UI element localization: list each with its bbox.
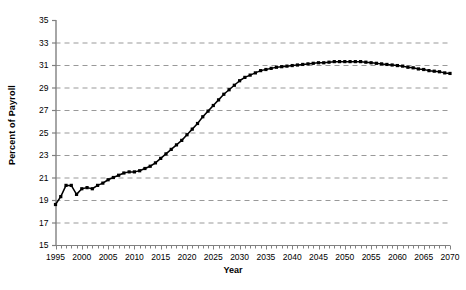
data-point-2058: [385, 63, 388, 66]
data-point-2064: [417, 67, 420, 70]
data-point-2046: [322, 61, 325, 64]
data-point-2055: [370, 61, 373, 64]
data-point-2024: [206, 110, 209, 113]
data-point-2034: [259, 69, 262, 72]
data-point-2066: [427, 69, 430, 72]
data-point-2031: [243, 76, 246, 79]
data-point-2013: [149, 165, 152, 168]
x-tick-label-2070: 2070: [441, 252, 460, 262]
data-point-2009: [128, 170, 131, 173]
data-point-2006: [112, 176, 115, 179]
x-tick-label-2000: 2000: [72, 252, 91, 262]
x-tick-label-2020: 2020: [178, 252, 197, 262]
data-point-2007: [117, 174, 120, 177]
data-point-2015: [159, 157, 162, 160]
x-tick-labels: 1995200020052010201520202025203020352040…: [46, 252, 460, 262]
data-point-2040: [291, 64, 294, 67]
data-point-2028: [227, 88, 230, 91]
y-tick-label-25: 25: [39, 128, 49, 138]
data-point-2035: [264, 68, 267, 71]
data-point-2047: [327, 61, 330, 64]
y-tick-label-31: 31: [39, 60, 49, 70]
data-point-2032: [249, 74, 252, 77]
data-point-2070: [448, 72, 451, 75]
line-chart: 1517192123252729313335 19952000200520102…: [0, 0, 466, 290]
x-tick-label-2015: 2015: [151, 252, 170, 262]
data-point-2016: [164, 152, 167, 155]
x-tick-label-2065: 2065: [414, 252, 433, 262]
data-point-2039: [285, 65, 288, 68]
x-tick-label-2060: 2060: [388, 252, 407, 262]
chart-container: 1517192123252729313335 19952000200520102…: [0, 0, 466, 290]
data-point-2029: [233, 84, 236, 87]
data-point-2067: [433, 70, 436, 73]
data-point-2036: [270, 67, 273, 70]
x-tick-label-2040: 2040: [283, 252, 302, 262]
data-point-2014: [154, 161, 157, 164]
data-point-2000: [80, 187, 83, 190]
data-point-2060: [396, 64, 399, 67]
data-point-2065: [422, 68, 425, 71]
data-point-2037: [275, 66, 278, 69]
data-point-2001: [85, 186, 88, 189]
data-point-2050: [343, 60, 346, 63]
data-point-2027: [222, 93, 225, 96]
x-tick-label-2005: 2005: [99, 252, 118, 262]
data-point-2025: [212, 104, 215, 107]
y-tick-label-29: 29: [39, 83, 49, 93]
data-point-2010: [133, 170, 136, 173]
data-point-1999: [75, 193, 78, 196]
x-tick-label-2050: 2050: [335, 252, 354, 262]
data-point-2018: [175, 143, 178, 146]
y-tick-label-33: 33: [39, 38, 49, 48]
data-point-1998: [70, 184, 73, 187]
data-point-2045: [317, 61, 320, 64]
data-point-2054: [364, 61, 367, 64]
data-point-2053: [359, 60, 362, 63]
x-axis-title: Year: [0, 265, 466, 275]
data-point-2043: [306, 62, 309, 65]
x-tick-label-2035: 2035: [256, 252, 275, 262]
data-point-2052: [354, 60, 357, 63]
data-point-2068: [438, 70, 441, 73]
data-point-2061: [401, 65, 404, 68]
data-point-2003: [96, 184, 99, 187]
data-point-2030: [238, 79, 241, 82]
y-tick-label-23: 23: [39, 150, 49, 160]
x-axis: [56, 246, 451, 250]
y-tick-label-19: 19: [39, 195, 49, 205]
data-point-2051: [348, 60, 351, 63]
x-tick-label-2045: 2045: [309, 252, 328, 262]
x-tick-label-2025: 2025: [204, 252, 223, 262]
data-point-2012: [143, 167, 146, 170]
data-point-2062: [406, 66, 409, 69]
y-tick-label-21: 21: [39, 173, 49, 183]
data-point-2059: [391, 63, 394, 66]
data-point-1995: [54, 203, 57, 206]
data-point-2005: [107, 178, 110, 181]
data-point-2022: [196, 122, 199, 125]
data-point-2019: [180, 139, 183, 142]
data-point-2042: [301, 63, 304, 66]
data-point-2056: [375, 62, 378, 65]
x-tick-label-2010: 2010: [125, 252, 144, 262]
data-point-2063: [412, 66, 415, 69]
y-tick-labels: 1517192123252729313335: [39, 15, 49, 250]
data-point-2049: [338, 60, 341, 63]
data-point-2044: [312, 62, 315, 65]
data-point-2069: [443, 71, 446, 74]
data-point-2004: [101, 182, 104, 185]
data-point-1997: [64, 184, 67, 187]
data-point-2033: [254, 71, 257, 74]
data-point-1996: [59, 195, 62, 198]
x-tick-label-1995: 1995: [46, 252, 65, 262]
data-point-2020: [185, 133, 188, 136]
data-point-2048: [333, 60, 336, 63]
data-point-2008: [122, 171, 125, 174]
data-point-2023: [201, 115, 204, 118]
data-point-2021: [191, 128, 194, 131]
y-tick-label-27: 27: [39, 105, 49, 115]
x-tick-label-2030: 2030: [230, 252, 249, 262]
data-point-2026: [217, 98, 220, 101]
data-point-2017: [170, 148, 173, 151]
